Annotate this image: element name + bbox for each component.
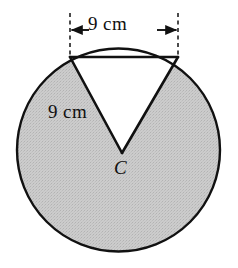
circle-center-label: C (114, 158, 127, 177)
circle-sector-figure: 9 cm 9 cm C (0, 0, 238, 268)
figure-canvas (0, 0, 238, 268)
radius-length-label: 9 cm (48, 102, 87, 121)
chord-dimension-label: 9 cm (88, 14, 127, 33)
